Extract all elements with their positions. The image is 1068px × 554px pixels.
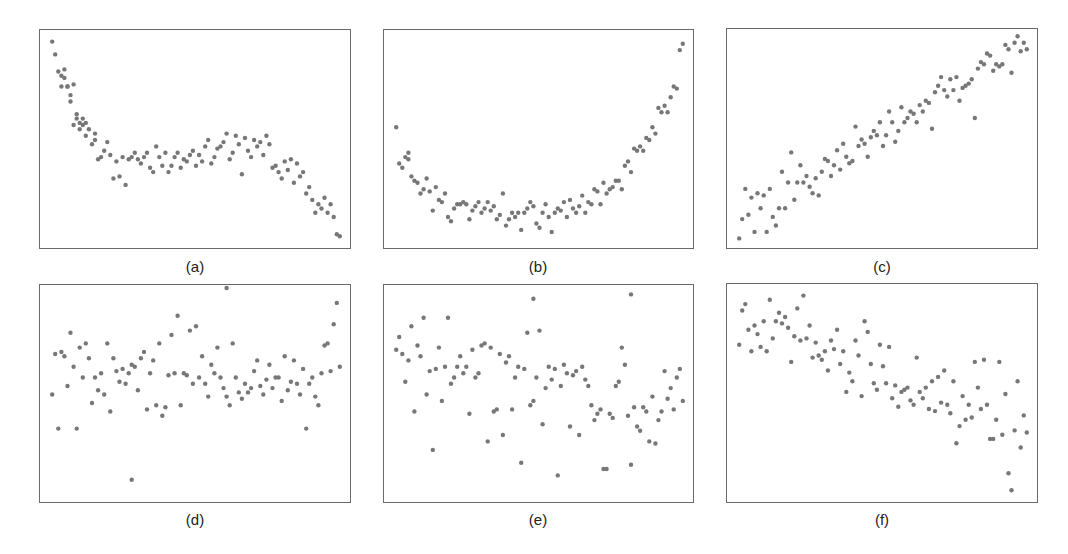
data-point [1000, 62, 1004, 66]
plot-frame-e [383, 284, 694, 503]
data-point [93, 138, 97, 142]
data-point [869, 135, 873, 139]
data-point [431, 448, 435, 452]
data-point [68, 93, 72, 97]
data-point [933, 90, 937, 94]
data-point [160, 414, 164, 418]
data-point [933, 409, 937, 413]
data-point [896, 405, 900, 409]
data-point [163, 151, 167, 155]
data-point [215, 345, 219, 349]
scatter-points-a [40, 30, 350, 248]
data-point [298, 174, 302, 178]
data-point [476, 200, 480, 204]
data-point [273, 164, 277, 168]
data-point [428, 189, 432, 193]
data-point [749, 195, 753, 199]
data-point [292, 358, 296, 362]
data-point [424, 176, 428, 180]
data-point [792, 334, 796, 338]
data-point [258, 384, 262, 388]
data-point [276, 170, 280, 174]
data-point [807, 323, 811, 327]
data-point [997, 360, 1001, 364]
panel-label-a: (a) [165, 258, 225, 275]
data-point [516, 211, 520, 215]
data-point [470, 348, 474, 352]
data-point [328, 202, 332, 206]
data-point [102, 392, 106, 396]
data-point [801, 180, 805, 184]
data-point [87, 356, 91, 360]
data-point [397, 335, 401, 339]
data-point [774, 319, 778, 323]
data-point [172, 155, 176, 159]
data-point [617, 380, 621, 384]
data-point [804, 336, 808, 340]
data-point [893, 140, 897, 144]
data-point [316, 202, 320, 206]
data-point [261, 392, 265, 396]
data-point [758, 206, 762, 210]
data-point [418, 354, 422, 358]
data-point [795, 306, 799, 310]
data-point [206, 138, 210, 142]
data-point [985, 403, 989, 407]
data-point [681, 399, 685, 403]
data-point [1019, 49, 1023, 53]
data-point [659, 409, 663, 413]
data-point [743, 302, 747, 306]
data-point [1006, 47, 1010, 51]
data-point [970, 415, 974, 419]
data-point [99, 155, 103, 159]
data-point [179, 403, 183, 407]
data-point [669, 386, 673, 390]
data-point [543, 386, 547, 390]
data-point [133, 365, 137, 369]
data-point [844, 155, 848, 159]
data-point [467, 217, 471, 221]
data-point [255, 144, 259, 148]
data-point [160, 164, 164, 168]
data-point [139, 356, 143, 360]
data-point [942, 368, 946, 372]
data-point [672, 407, 676, 411]
data-point [789, 150, 793, 154]
data-point [850, 379, 854, 383]
plot-frame-a [39, 29, 351, 249]
data-point [513, 375, 517, 379]
data-point [875, 133, 879, 137]
data-point [148, 166, 152, 170]
data-point [120, 367, 124, 371]
data-point [875, 388, 879, 392]
data-point [887, 109, 891, 113]
data-point [90, 142, 94, 146]
data-point [650, 125, 654, 129]
data-point [473, 375, 477, 379]
data-point [81, 375, 85, 379]
data-point [762, 319, 766, 323]
data-point [887, 345, 891, 349]
data-point [464, 365, 468, 369]
data-point [151, 358, 155, 362]
data-point [577, 204, 581, 208]
data-point [669, 95, 673, 99]
data-point [224, 286, 228, 290]
data-point [862, 319, 866, 323]
data-point [498, 352, 502, 356]
data-point [75, 116, 79, 120]
data-point [866, 155, 870, 159]
data-point [449, 382, 453, 386]
data-point [276, 375, 280, 379]
data-point [228, 403, 232, 407]
data-point [957, 424, 961, 428]
data-point [504, 360, 508, 364]
data-point [988, 53, 992, 57]
data-point [820, 358, 824, 362]
data-point [200, 354, 204, 358]
data-point [237, 390, 241, 394]
data-point [783, 315, 787, 319]
data-point [319, 206, 323, 210]
data-point [111, 356, 115, 360]
data-point [59, 84, 63, 88]
